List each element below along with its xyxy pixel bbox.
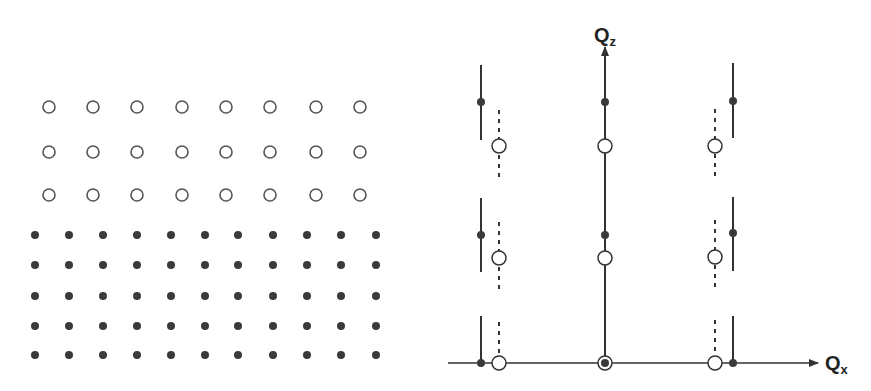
- filled-lattice-site: [65, 261, 73, 269]
- filled-reciprocal-point: [601, 231, 609, 239]
- open-lattice-site: [43, 146, 55, 158]
- open-lattice-site: [43, 101, 55, 113]
- open-reciprocal-point: [492, 251, 506, 265]
- filled-lattice-site: [303, 231, 311, 239]
- filled-reciprocal-point: [601, 98, 609, 106]
- open-reciprocal-point: [492, 139, 506, 153]
- filled-lattice-site: [234, 351, 242, 359]
- filled-lattice-site: [269, 261, 277, 269]
- open-lattice-site: [43, 189, 55, 201]
- filled-lattice-site: [201, 261, 209, 269]
- filled-lattice-site: [31, 231, 39, 239]
- filled-lattice-site: [65, 292, 73, 300]
- open-lattice-site: [131, 146, 143, 158]
- open-lattice-site: [131, 189, 143, 201]
- real-space-lattice: [31, 101, 380, 359]
- filled-reciprocal-point: [477, 98, 485, 106]
- filled-reciprocal-point: [729, 359, 737, 367]
- filled-lattice-site: [99, 351, 107, 359]
- qz-axis-label: Qz: [594, 24, 617, 49]
- open-lattice-site: [220, 146, 232, 158]
- open-circle-lattice: [43, 101, 366, 201]
- filled-lattice-site: [133, 261, 141, 269]
- filled-lattice-site: [201, 351, 209, 359]
- filled-reciprocal-point: [477, 231, 485, 239]
- filled-lattice-site: [99, 231, 107, 239]
- filled-lattice-site: [337, 322, 345, 330]
- open-lattice-site: [176, 146, 188, 158]
- filled-lattice-site: [99, 322, 107, 330]
- open-lattice-site: [220, 101, 232, 113]
- filled-lattice-site: [201, 231, 209, 239]
- filled-lattice-site: [372, 292, 380, 300]
- filled-lattice-site: [99, 261, 107, 269]
- filled-lattice-site: [133, 322, 141, 330]
- filled-reciprocal-point: [729, 229, 737, 237]
- filled-lattice-site: [303, 322, 311, 330]
- open-lattice-site: [176, 189, 188, 201]
- filled-reciprocal-point: [477, 359, 485, 367]
- filled-reciprocal-point: [601, 359, 609, 367]
- open-lattice-site: [220, 189, 232, 201]
- filled-lattice-site: [31, 322, 39, 330]
- filled-lattice-site: [372, 351, 380, 359]
- filled-lattice-site: [234, 231, 242, 239]
- open-lattice-site: [176, 101, 188, 113]
- filled-lattice-site: [201, 292, 209, 300]
- filled-lattice-site: [167, 351, 175, 359]
- open-reciprocal-point: [708, 250, 722, 264]
- filled-lattice-site: [269, 292, 277, 300]
- open-lattice-site: [87, 101, 99, 113]
- open-lattice-site: [310, 101, 322, 113]
- open-reciprocal-point: [708, 356, 722, 370]
- filled-lattice-site: [372, 322, 380, 330]
- filled-lattice-site: [234, 261, 242, 269]
- open-lattice-site: [354, 146, 366, 158]
- open-reciprocal-point: [708, 139, 722, 153]
- filled-lattice-site: [337, 351, 345, 359]
- filled-lattice-site: [269, 351, 277, 359]
- open-reciprocal-point: [492, 356, 506, 370]
- filled-lattice-site: [99, 292, 107, 300]
- filled-lattice-site: [31, 261, 39, 269]
- filled-lattice-site: [133, 351, 141, 359]
- filled-lattice-site: [234, 292, 242, 300]
- filled-lattice-site: [65, 322, 73, 330]
- open-reciprocal-point: [598, 251, 612, 265]
- open-lattice-site: [310, 189, 322, 201]
- reciprocal-space-diagram: Qz Qx: [448, 24, 849, 377]
- open-lattice-site: [310, 146, 322, 158]
- filled-lattice-site: [133, 292, 141, 300]
- filled-lattice-site: [372, 231, 380, 239]
- filled-lattice-site: [65, 351, 73, 359]
- filled-lattice-site: [31, 292, 39, 300]
- open-lattice-site: [264, 146, 276, 158]
- filled-lattice-site: [133, 231, 141, 239]
- filled-lattice-site: [167, 231, 175, 239]
- filled-lattice-site: [337, 261, 345, 269]
- open-reciprocal-point: [598, 139, 612, 153]
- open-lattice-site: [87, 189, 99, 201]
- diagram-canvas: Qz Qx: [0, 0, 871, 391]
- filled-dot-lattice: [31, 231, 380, 359]
- open-lattice-site: [354, 189, 366, 201]
- filled-lattice-site: [269, 322, 277, 330]
- filled-lattice-site: [303, 261, 311, 269]
- filled-lattice-site: [167, 292, 175, 300]
- filled-lattice-site: [167, 261, 175, 269]
- filled-lattice-site: [303, 292, 311, 300]
- qx-axis-label: Qx: [825, 352, 849, 377]
- open-lattice-site: [354, 101, 366, 113]
- open-lattice-site: [264, 101, 276, 113]
- open-lattice-site: [87, 146, 99, 158]
- open-lattice-site: [131, 101, 143, 113]
- filled-lattice-site: [269, 231, 277, 239]
- filled-lattice-site: [303, 351, 311, 359]
- filled-reciprocal-point: [729, 97, 737, 105]
- reciprocal-points: [477, 97, 737, 370]
- filled-lattice-site: [337, 292, 345, 300]
- filled-lattice-site: [201, 322, 209, 330]
- filled-lattice-site: [167, 322, 175, 330]
- open-lattice-site: [264, 189, 276, 201]
- filled-lattice-site: [65, 231, 73, 239]
